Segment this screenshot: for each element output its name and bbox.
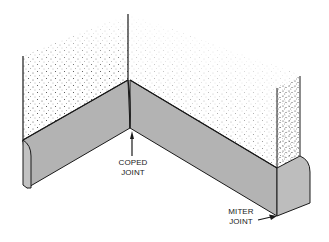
miter-joint-label-line1: MITER [222, 207, 260, 217]
miter-joint-label-line2: JOINT [222, 217, 260, 227]
left-baseboard-end-cap [23, 140, 31, 188]
baseboard-return-face [277, 156, 310, 216]
baseboard-joint-diagram [0, 0, 329, 242]
wall-end-section [277, 76, 300, 168]
coped-joint-label: COPED JOINT [113, 158, 153, 178]
miter-joint-label: MITER JOINT [222, 207, 260, 227]
coped-joint-label-line2: JOINT [113, 168, 153, 178]
miter-joint-arrow [258, 215, 277, 221]
coped-joint-label-line1: COPED [113, 158, 153, 168]
wall-end-stipple [277, 76, 300, 168]
coped-joint-arrow [130, 131, 134, 156]
